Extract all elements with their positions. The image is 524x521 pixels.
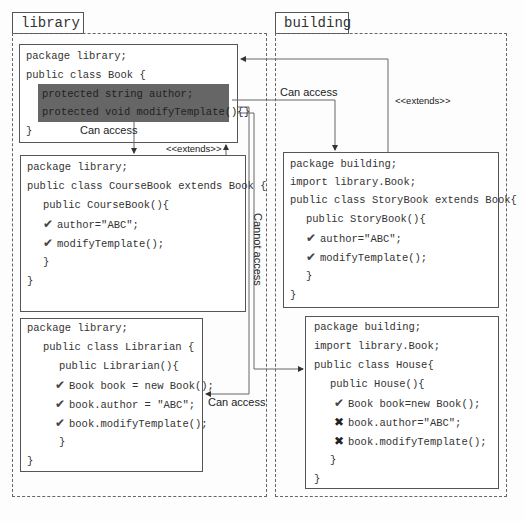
- diagram-canvas: library building package library; public…: [0, 0, 524, 521]
- label-can-access-coursebook: Can access: [80, 124, 137, 136]
- label-cannot-access-house: Cannot access: [252, 213, 264, 286]
- label-extends-coursebook: <<extends>>: [166, 143, 221, 154]
- label-can-access-storybook: Can access: [280, 86, 337, 98]
- label-extends-storybook: <<extends>>: [395, 95, 450, 106]
- label-can-access-librarian: Can access: [208, 396, 265, 408]
